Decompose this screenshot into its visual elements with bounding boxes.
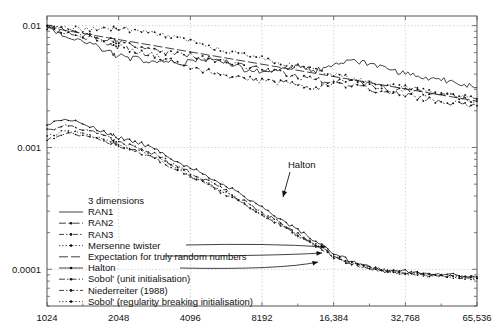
series-marker (393, 91, 395, 93)
annotation-label: Halton (288, 159, 315, 170)
series-marker (255, 56, 257, 58)
series-marker (243, 199, 245, 201)
series-marker (202, 179, 204, 181)
series-marker (297, 63, 299, 65)
series-marker (110, 133, 112, 135)
series-marker (237, 62, 239, 64)
series-marker (154, 152, 156, 154)
series-marker (103, 27, 105, 29)
y-tick-label: 0.001 (17, 142, 41, 153)
series-marker (416, 87, 418, 89)
series-marker (470, 275, 472, 277)
series-marker (345, 257, 347, 259)
series-marker (464, 275, 466, 277)
series-marker (118, 144, 120, 146)
series-marker (243, 203, 245, 205)
series-marker (369, 266, 371, 268)
series-marker (291, 75, 293, 77)
series-marker (118, 45, 120, 47)
series-marker (75, 120, 77, 122)
series-marker (297, 84, 299, 86)
series-marker (286, 227, 288, 229)
series-marker (285, 65, 287, 67)
series-marker (61, 130, 63, 132)
series-marker (202, 43, 204, 45)
series-marker (261, 78, 263, 80)
series-marker (154, 157, 156, 159)
series-marker (134, 46, 136, 48)
series-marker (189, 39, 191, 41)
series-marker (458, 278, 460, 280)
series-marker (165, 158, 167, 160)
series-marker (267, 68, 269, 70)
series-marker (470, 279, 472, 281)
series-marker (68, 120, 70, 122)
series-marker (249, 67, 251, 69)
series-marker (220, 74, 222, 76)
series-marker (273, 81, 275, 83)
series-marker (226, 191, 228, 193)
series-marker (170, 167, 172, 169)
error-convergence-chart: 102420484096819216,38432,76865,536 0.010… (0, 0, 501, 335)
series-marker (399, 94, 401, 96)
series-marker (297, 236, 299, 238)
series-marker (165, 54, 167, 56)
series-marker (303, 238, 305, 240)
series-marker (315, 243, 317, 245)
series-marker (147, 144, 149, 146)
series-marker (410, 93, 412, 95)
series-marker (170, 158, 172, 160)
series-marker (339, 259, 341, 261)
series-marker (315, 68, 317, 70)
series-marker (453, 273, 455, 275)
y-tick-label: 0.01 (23, 20, 42, 31)
series-marker (297, 232, 299, 234)
x-tick-label: 4096 (180, 312, 201, 323)
series-marker (345, 81, 347, 83)
series-marker (118, 29, 120, 31)
series-marker (345, 87, 347, 89)
series-marker (351, 264, 353, 266)
series-marker (220, 193, 222, 195)
series-marker (309, 66, 311, 68)
series-marker (470, 105, 472, 107)
series-marker (315, 86, 317, 88)
series-marker (123, 47, 125, 49)
x-tick-label: 32,768 (391, 312, 420, 323)
series-marker (159, 59, 161, 61)
series-marker (46, 128, 48, 130)
series-marker (110, 43, 112, 45)
series-marker (141, 46, 143, 48)
series-marker (291, 81, 293, 83)
series-marker (423, 273, 425, 275)
series-marker (339, 82, 341, 84)
series-marker (75, 134, 77, 136)
series-marker (89, 130, 91, 132)
series-marker (291, 232, 293, 234)
series-marker (274, 222, 276, 224)
series-marker (464, 279, 466, 281)
series-marker (440, 92, 442, 94)
series-marker (267, 215, 269, 217)
x-tick-label: 16,384 (319, 312, 348, 323)
series-marker (118, 43, 120, 45)
series-marker (196, 176, 198, 178)
series-marker (243, 64, 245, 66)
series-marker (220, 185, 222, 187)
series-marker (387, 90, 389, 92)
series-marker (177, 51, 179, 53)
series-marker (214, 49, 216, 51)
series-marker (134, 149, 136, 151)
series-marker (267, 210, 269, 212)
series-marker (82, 123, 84, 125)
series-marker (404, 96, 406, 98)
series-marker (110, 137, 112, 139)
series-marker (103, 139, 105, 141)
series-marker (154, 48, 156, 50)
series-marker (452, 93, 454, 95)
series-marker (428, 93, 430, 95)
legend-entry-label: RAN3 (88, 229, 113, 240)
series-marker (280, 70, 282, 72)
series-marker (177, 61, 179, 63)
series-marker (291, 224, 293, 226)
